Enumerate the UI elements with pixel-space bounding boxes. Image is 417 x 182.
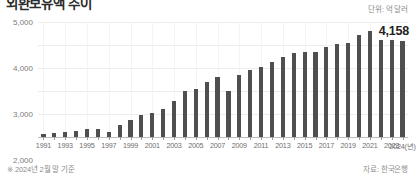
x-axis-tick-mark	[152, 137, 153, 140]
x-axis-tick-mark	[272, 137, 273, 140]
value-callout: 4,158	[379, 24, 409, 38]
x-axis-tick-label: 2001	[145, 141, 160, 150]
bar	[292, 53, 296, 137]
x-axis-tick-mark	[392, 137, 393, 140]
x-axis-tick-mark	[239, 137, 240, 140]
x-axis-tick-label: 2021	[362, 141, 377, 150]
footnote-source: 자료: 한국은행	[363, 163, 408, 174]
plot-area: 01,0002,0003,0004,0005,000	[38, 22, 408, 137]
bar	[215, 77, 219, 137]
x-axis-tick-mark	[185, 137, 186, 140]
x-axis-tick-label: 1993	[58, 141, 73, 150]
x-axis-tick-mark	[109, 137, 110, 140]
x-axis-tick-label: 1995	[79, 141, 94, 150]
x-axis-tick-label: 2013	[275, 141, 290, 150]
bar	[139, 115, 143, 137]
x-axis-tick-mark	[131, 137, 132, 140]
x-axis-tick-mark	[316, 137, 317, 140]
x-axis-tick-mark	[207, 137, 208, 140]
x-axis-tick-label: 2019	[341, 141, 356, 150]
bar	[205, 82, 209, 137]
x-axis-tick-label: 2015	[297, 141, 312, 150]
footnote-note: ※ 2024년 2월 말 기준	[7, 163, 74, 174]
bar	[390, 40, 394, 137]
x-axis-tick-mark	[283, 137, 284, 140]
x-axis-tick-mark	[305, 137, 306, 140]
bar	[183, 91, 187, 137]
bar	[270, 62, 274, 137]
bar	[85, 129, 89, 137]
x-axis-tick-mark	[120, 137, 121, 140]
bars-group	[38, 22, 408, 137]
x-axis-tick-label: 2011	[254, 141, 269, 150]
chart-container: 외환보유액 추이 단위: 억 달러 01,0002,0003,0004,0005…	[0, 0, 417, 182]
x-axis-tick-label: 2024(년)	[389, 141, 415, 151]
x-axis-tick-label: 2017	[319, 141, 334, 150]
x-axis-tick-mark	[381, 137, 382, 140]
bar	[357, 35, 361, 137]
bar	[118, 125, 122, 137]
x-axis-tick-mark	[76, 137, 77, 140]
bar	[281, 57, 285, 137]
bar	[194, 89, 198, 137]
x-axis-tick-mark	[174, 137, 175, 140]
x-axis-tick-mark	[261, 137, 262, 140]
x-axis-tick-label: 2009	[232, 141, 247, 150]
x-axis-tick-mark	[348, 137, 349, 140]
bar	[368, 31, 372, 138]
x-axis-tick-label: 1997	[101, 141, 116, 150]
x-axis-tick-mark	[141, 137, 142, 140]
x-axis-tick-mark	[98, 137, 99, 140]
bar	[379, 40, 383, 137]
bar	[259, 67, 263, 137]
x-axis-tick-mark	[294, 137, 295, 140]
bar	[346, 43, 350, 137]
bar	[303, 52, 307, 137]
bar	[248, 70, 252, 137]
bar	[324, 47, 328, 137]
bar	[96, 129, 100, 137]
x-axis-tick-mark	[403, 137, 404, 140]
y-axis-tick-label: 3,000	[13, 110, 33, 119]
x-axis-tick-mark	[54, 137, 55, 140]
unit-label: 단위: 억 달러	[368, 3, 408, 14]
x-axis-tick-mark	[250, 137, 251, 140]
x-axis-tick-label: 1991	[36, 141, 51, 150]
bar	[150, 113, 154, 137]
bar	[226, 91, 230, 137]
x-axis-tick-label: 2003	[166, 141, 181, 150]
x-axis-tick-mark	[228, 137, 229, 140]
bar	[400, 41, 404, 137]
x-axis-tick-label: 1999	[123, 141, 138, 150]
x-axis-tick-mark	[370, 137, 371, 140]
y-axis-tick-label: 5,000	[13, 18, 33, 27]
bar	[313, 52, 317, 137]
chart-title: 외환보유액 추이	[6, 0, 91, 12]
bar	[161, 109, 165, 137]
bar	[335, 44, 339, 137]
bar	[128, 120, 132, 137]
bar	[172, 101, 176, 137]
x-axis-tick-mark	[359, 137, 360, 140]
x-axis-tick-mark	[87, 137, 88, 140]
x-axis-tick-label: 2005	[188, 141, 203, 150]
x-axis-tick-mark	[65, 137, 66, 140]
y-axis-tick-label: 4,000	[13, 64, 33, 73]
x-axis-tick-mark	[43, 137, 44, 140]
x-axis-tick-mark	[326, 137, 327, 140]
x-axis-tick-mark	[163, 137, 164, 140]
x-axis: 1991199319951997199920012003200520072009…	[38, 137, 408, 157]
x-axis-tick-mark	[196, 137, 197, 140]
x-axis-tick-mark	[218, 137, 219, 140]
x-axis-tick-label: 2007	[210, 141, 225, 150]
bar	[237, 75, 241, 137]
x-axis-tick-mark	[337, 137, 338, 140]
